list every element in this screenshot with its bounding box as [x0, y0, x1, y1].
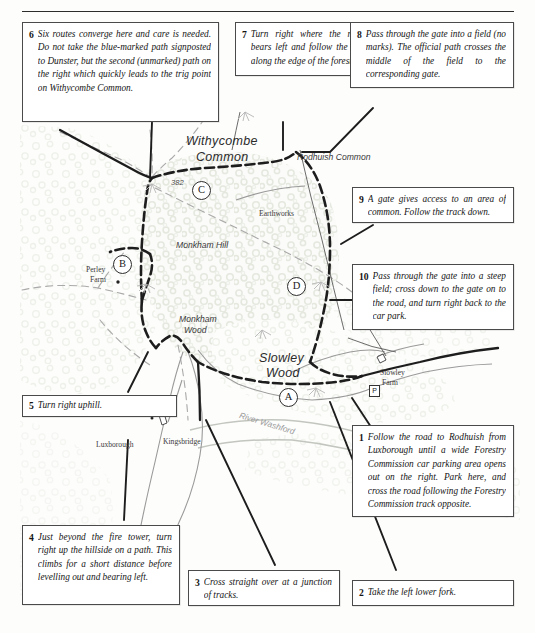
waypoint-c[interactable]: C — [192, 181, 211, 200]
note-text: Turn right uphill. — [38, 399, 169, 412]
page-root: Withycombe Common Rodhuish Common Earthw… — [0, 0, 535, 633]
label-perley-farm-line2: Farm — [90, 275, 106, 284]
note-box-3[interactable]: 3 Cross straight over at a junction of t… — [188, 570, 340, 606]
note-number: 5 — [29, 399, 34, 412]
perley-farm-dot — [116, 280, 119, 283]
label-withycombe-common-line2: Common — [196, 150, 249, 164]
note-number: 8 — [357, 28, 362, 41]
note-text: Just beyond the fire tower, turn right u… — [38, 531, 172, 585]
label-slowley-farm-line1: Slowley — [380, 368, 405, 377]
note-number: 10 — [359, 270, 369, 283]
note-box-9[interactable]: 9 A gate gives access to an area of comm… — [352, 187, 514, 223]
label-slowley-farm-line2: Farm — [382, 378, 398, 387]
note-text: Follow the road to Rodhuish from Luxboro… — [368, 431, 506, 511]
leader-note8 — [302, 108, 373, 152]
note-box-10[interactable]: 10 Pass through the gate into a steep fi… — [352, 264, 514, 330]
note-number: 1 — [359, 431, 364, 444]
label-spot-height: 382 — [171, 178, 184, 187]
note-text: Pass through the gate into a field (no m… — [366, 28, 506, 82]
leader-note9 — [341, 225, 373, 244]
note-text: Cross straight over at a junction of tra… — [204, 576, 332, 603]
note-box-4[interactable]: 4 Just beyond the fire tower, turn right… — [22, 525, 180, 605]
note-number: 6 — [29, 28, 34, 41]
note-text: A gate gives access to an area of common… — [368, 193, 506, 220]
label-monkham-wood-line2: Wood — [184, 325, 206, 335]
label-slowley-wood-line1: Slowley — [259, 351, 304, 365]
label-perley-farm-line1: Perley — [86, 265, 105, 274]
label-kingsbridge: Kingsbridge — [163, 437, 201, 446]
label-monkham-hill: Monkham Hill — [176, 240, 228, 250]
note-number: 3 — [195, 576, 200, 589]
note-box-8[interactable]: 8 Pass through the gate into a field (no… — [350, 22, 514, 88]
note-text: Pass through the gate into a steep field… — [373, 270, 506, 324]
leader-note4 — [124, 440, 128, 520]
note-text: Take the left lower fork. — [368, 586, 506, 599]
note-box-5[interactable]: 5 Turn right uphill. — [22, 395, 177, 417]
note-number: 4 — [29, 531, 34, 544]
waypoint-a[interactable]: A — [279, 388, 298, 407]
note-box-1[interactable]: 1 Follow the road to Rodhuish from Luxbo… — [352, 425, 514, 517]
label-luxborough: Luxborough — [96, 440, 134, 449]
note-box-2[interactable]: 2 Take the left lower fork. — [352, 580, 514, 606]
note-number: 9 — [359, 193, 364, 206]
note-number: 2 — [359, 586, 364, 599]
label-slowley-wood-line2: Wood — [266, 366, 300, 380]
label-withycombe-common-line1: Withycombe — [186, 134, 258, 148]
note-text: Six routes converge here and care is nee… — [38, 28, 211, 95]
label-earthworks: Earthworks — [259, 209, 294, 218]
label-monkham-wood-line1: Monkham — [179, 314, 217, 324]
waypoint-b[interactable]: B — [113, 255, 132, 274]
note-box-6[interactable]: 6 Six routes converge here and care is n… — [22, 22, 219, 122]
label-rodhuish-common: Rodhuish Common — [297, 152, 371, 162]
note-number: 7 — [242, 28, 247, 41]
parking-symbol: P — [369, 385, 380, 397]
waypoint-d[interactable]: D — [287, 277, 306, 296]
